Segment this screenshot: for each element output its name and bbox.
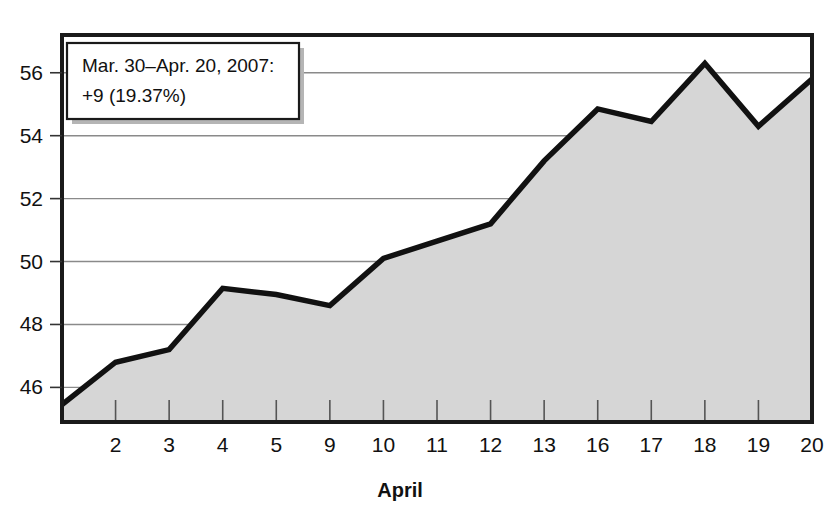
y-axis-label-54: 54 — [20, 124, 44, 147]
range-change-callout: Mar. 30–Apr. 20, 2007: +9 (19.37%) — [67, 43, 304, 124]
x-axis-label-18: 18 — [693, 433, 716, 456]
x-axis-label-16: 16 — [586, 433, 609, 456]
x-axis-label-13: 13 — [532, 433, 555, 456]
x-axis-label-11: 11 — [426, 433, 448, 456]
x-axis-label-3: 3 — [163, 433, 175, 456]
y-axis-label-50: 50 — [20, 250, 43, 273]
x-axis-label-20: 20 — [800, 433, 823, 456]
x-axis-label-4: 4 — [217, 433, 229, 456]
stock-price-area-chart: 464850525456 23459101112131617181920 Apr… — [0, 0, 838, 512]
y-axis-label-48: 48 — [20, 312, 43, 335]
x-axis-label-17: 17 — [640, 433, 663, 456]
y-axis-label-46: 46 — [20, 375, 43, 398]
x-axis-label-12: 12 — [479, 433, 502, 456]
y-axis-label-56: 56 — [20, 61, 43, 84]
x-axis-label-10: 10 — [372, 433, 395, 456]
y-axis-label-52: 52 — [20, 187, 43, 210]
callout-line-1: Mar. 30–Apr. 20, 2007: — [82, 55, 274, 76]
x-axis-label-19: 19 — [747, 433, 770, 456]
x-axis-label-5: 5 — [270, 433, 282, 456]
chart-container: 464850525456 23459101112131617181920 Apr… — [0, 0, 838, 512]
x-axis-label-2: 2 — [110, 433, 122, 456]
x-axis-label-9: 9 — [324, 433, 336, 456]
callout-line-2: +9 (19.37%) — [82, 85, 186, 106]
x-axis-title: April — [377, 479, 423, 501]
